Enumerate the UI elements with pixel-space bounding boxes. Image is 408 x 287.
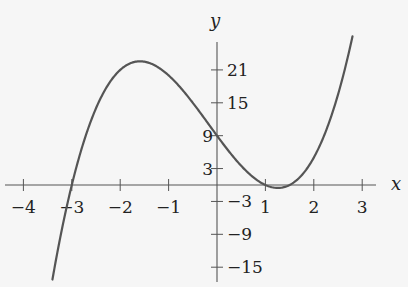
y-tick-label: −15 [227, 257, 263, 277]
x-tick-label: 3 [357, 197, 368, 217]
tick-labels: −4−3−2−1123211593−3−9−15 [11, 60, 368, 277]
ticks [23, 70, 362, 267]
x-tick-label: −2 [108, 197, 133, 217]
axes [5, 42, 376, 282]
y-axis-label: y [209, 10, 221, 31]
x-tick-label: −4 [11, 197, 36, 217]
y-tick-label: 21 [227, 60, 249, 80]
x-tick-label: −1 [156, 197, 181, 217]
y-tick-label: −3 [227, 191, 252, 211]
x-tick-label: 1 [260, 197, 271, 217]
x-tick-label: 2 [308, 197, 319, 217]
y-tick-label: 3 [202, 159, 213, 179]
function-plot: −4−3−2−1123211593−3−9−15 x y [0, 0, 408, 287]
x-axis-label: x [391, 173, 401, 194]
y-tick-label: −9 [227, 224, 252, 244]
x-tick-label: −3 [59, 197, 84, 217]
y-tick-label: 15 [227, 93, 249, 113]
